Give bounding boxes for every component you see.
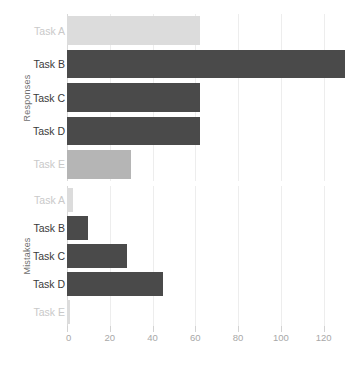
x-tick-label-0: 0: [66, 332, 71, 343]
x-axis: 020406080100120: [67, 326, 345, 350]
bar-mistakes-2[interactable]: [67, 216, 88, 240]
plot-area-mistakes: Task ATask BTask CTask DTask E: [67, 186, 345, 326]
bar-row[interactable]: Task C: [67, 81, 345, 114]
bar-row[interactable]: Task D: [67, 270, 345, 298]
bar-responses-2[interactable]: [67, 50, 345, 79]
plot-area-responses: Task ATask BTask CTask DTask E: [67, 14, 345, 181]
x-tick-label-20: 20: [104, 332, 115, 343]
bar-mistakes-4[interactable]: [67, 272, 163, 296]
bar-mistakes-1[interactable]: [67, 188, 73, 212]
bar-row[interactable]: Task E: [67, 298, 345, 326]
category-label-responses-1: Task A: [34, 25, 65, 37]
bar-responses-5[interactable]: [67, 150, 131, 179]
x-tick-label-60: 60: [190, 332, 201, 343]
x-tick-label-40: 40: [147, 332, 158, 343]
category-label-mistakes-1: Task A: [34, 194, 65, 206]
bar-responses-1[interactable]: [67, 16, 200, 45]
category-label-mistakes-3: Task C: [33, 250, 65, 262]
bar-row[interactable]: Task C: [67, 242, 345, 270]
bar-row[interactable]: Task A: [67, 14, 345, 47]
category-label-responses-2: Task B: [33, 58, 65, 70]
x-tick-label-120: 120: [316, 332, 332, 343]
category-label-mistakes-4: Task D: [33, 278, 65, 290]
bar-chart: Responses Mistakes Task ATask BTask CTas…: [0, 0, 356, 366]
category-label-mistakes-5: Task E: [33, 306, 65, 318]
category-label-responses-5: Task E: [33, 158, 65, 170]
bar-row[interactable]: Task B: [67, 47, 345, 80]
bar-row[interactable]: Task E: [67, 148, 345, 181]
bar-responses-3[interactable]: [67, 83, 200, 112]
x-tick-label-100: 100: [273, 332, 289, 343]
panel-responses: Task ATask BTask CTask DTask E: [0, 14, 356, 181]
bar-responses-4[interactable]: [67, 117, 200, 146]
bar-row[interactable]: Task A: [67, 186, 345, 214]
bar-rows-responses: Task ATask BTask CTask DTask E: [67, 14, 345, 181]
bar-mistakes-5[interactable]: [67, 300, 70, 324]
bar-row[interactable]: Task B: [67, 214, 345, 242]
category-label-responses-4: Task D: [33, 125, 65, 137]
bar-row[interactable]: Task D: [67, 114, 345, 147]
x-tick-label-80: 80: [233, 332, 244, 343]
bar-mistakes-3[interactable]: [67, 244, 127, 268]
category-label-responses-3: Task C: [33, 92, 65, 104]
bar-rows-mistakes: Task ATask BTask CTask DTask E: [67, 186, 345, 326]
panel-mistakes: Task ATask BTask CTask DTask E: [0, 186, 356, 326]
category-label-mistakes-2: Task B: [33, 222, 65, 234]
